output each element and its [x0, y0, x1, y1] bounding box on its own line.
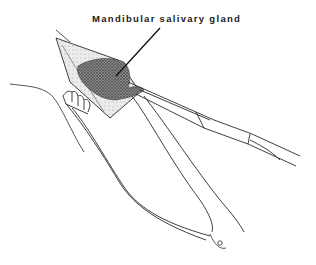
leader-line: [116, 28, 160, 76]
surgical-illustration: Mandibular salivary gland: [0, 0, 316, 265]
hemostatic-forceps: [128, 82, 300, 232]
toothed-retractor: [63, 91, 210, 240]
gland-label: Mandibular salivary gland: [92, 13, 241, 24]
illustration-drawing: [0, 0, 316, 265]
forceps-hinge: [210, 234, 226, 248]
